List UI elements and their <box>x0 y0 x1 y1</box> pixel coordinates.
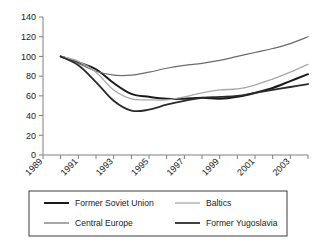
series-line <box>61 56 308 111</box>
x-tick-label: 1993 <box>94 156 115 177</box>
chart-container: 020406080100120140 198919911993199519971… <box>0 0 316 243</box>
data-series-group <box>61 37 308 112</box>
x-tick-label: 2001 <box>235 156 256 177</box>
x-tick-label: 2003 <box>271 156 292 177</box>
y-tick-label: 40 <box>26 111 36 121</box>
legend-label: Former Soviet Union <box>75 198 154 208</box>
legend-label: Baltics <box>206 198 231 208</box>
y-tick-label: 80 <box>26 71 36 81</box>
x-tick-label: 1989 <box>23 156 44 177</box>
y-tick-label: 140 <box>21 12 36 22</box>
legend-label: Central Europe <box>75 218 133 228</box>
y-tick-label: 100 <box>21 52 36 62</box>
y-axis-ticks <box>39 17 43 155</box>
series-line <box>61 56 308 100</box>
legend-box <box>29 191 287 236</box>
line-chart: 020406080100120140 198919911993199519971… <box>0 0 316 243</box>
x-tick-label: 1997 <box>165 156 186 177</box>
x-tick-label: 1991 <box>59 156 80 177</box>
y-axis-labels: 020406080100120140 <box>21 12 36 160</box>
y-tick-label: 60 <box>26 91 36 101</box>
legend-label: Former Yugoslavia <box>206 218 278 228</box>
y-tick-label: 20 <box>26 131 36 141</box>
series-line <box>61 56 308 99</box>
x-tick-label: 1995 <box>129 156 150 177</box>
x-axis-labels: 19891991199319951997199920012003 <box>23 156 292 177</box>
x-tick-label: 1999 <box>200 156 221 177</box>
legend-entries: Former Soviet UnionBalticsCentral Europe… <box>44 198 278 228</box>
y-tick-label: 120 <box>21 32 36 42</box>
